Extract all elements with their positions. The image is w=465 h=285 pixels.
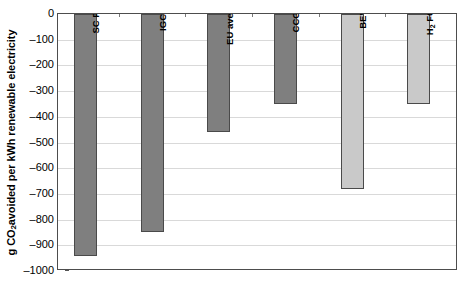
y-tick-label: –800 [12, 214, 54, 224]
bar-bev[interactable]: BEV [341, 14, 364, 189]
bar-label: H2 FCV [419, 13, 441, 35]
bar-chart: g CO2 avoided per kWh renewable electric… [0, 0, 465, 285]
y-tick-label: –900 [12, 239, 54, 249]
y-tick-label: –400 [12, 111, 54, 121]
y-axis-ticks: 0–100–200–300–400–500–600–700–800–900–10… [12, 13, 54, 270]
bar-igcc[interactable]: IGCC [141, 14, 164, 232]
bar-ccgt[interactable]: CCGT [274, 14, 297, 104]
bar-label: EU average [219, 13, 241, 45]
y-tick-label: –600 [12, 162, 54, 172]
y-tick-label: –700 [12, 188, 54, 198]
y-tick-label: –300 [12, 85, 54, 95]
bar-label: BEV [352, 13, 374, 29]
y-tick-label: –200 [12, 59, 54, 69]
y-tick-label: –500 [12, 137, 54, 147]
bar-sc-pc[interactable]: SC PC [74, 14, 97, 256]
plot-area: SC PCIGCCEU averageCCGTBEVH2 FCV [57, 13, 457, 270]
bars-group: SC PCIGCCEU averageCCGTBEVH2 FCV [58, 14, 456, 269]
bar-h[interactable]: H2 FCV [407, 14, 430, 104]
y-tick-label: 0 [12, 8, 54, 18]
y-tick-mark [65, 270, 69, 271]
bar-label: CCGT [285, 13, 307, 32]
bar-label: SC PC [85, 13, 107, 34]
bar-label: IGCC [152, 13, 174, 31]
y-tick-label: –1000 [12, 265, 54, 275]
y-tick-label: –100 [12, 34, 54, 44]
bar-eu-average[interactable]: EU average [207, 14, 230, 132]
